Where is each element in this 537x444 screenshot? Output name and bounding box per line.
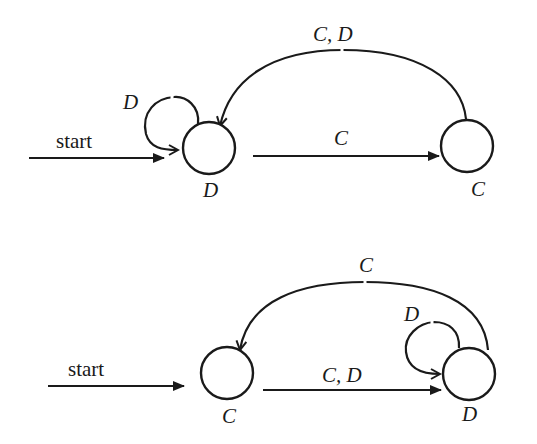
transition-label-top-cd: C, D — [313, 22, 353, 46]
transition-top-c-to-d — [220, 50, 466, 126]
state-label-bottom-c: C — [222, 404, 237, 428]
self-loop-label-top: D — [122, 90, 138, 114]
automata-diagram: start D C C, D D C start C, D D C — [0, 0, 537, 444]
automaton-top: start D C C, D D C — [29, 22, 493, 202]
transition-bottom-d-to-c — [240, 282, 488, 350]
transition-label-bottom-cd: C, D — [322, 363, 362, 387]
transition-label-bottom-c: C — [359, 253, 374, 277]
state-bottom-d — [443, 348, 495, 400]
automaton-bottom: start C, D D C C D — [48, 253, 495, 428]
state-top-c — [441, 120, 493, 172]
state-bottom-c — [201, 347, 253, 399]
start-label-bottom: start — [68, 357, 104, 381]
state-label-top-c: C — [471, 177, 486, 201]
start-label-top: start — [56, 129, 92, 153]
state-label-bottom-d: D — [461, 402, 477, 426]
transition-label-top-c: C — [334, 126, 349, 150]
state-top-d — [183, 122, 235, 174]
self-loop-label-bottom: D — [403, 302, 419, 326]
state-label-top-d: D — [202, 178, 218, 202]
